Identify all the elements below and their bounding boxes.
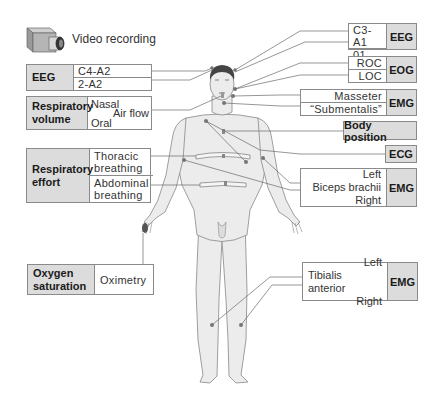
airflow-sensor — [221, 92, 224, 98]
thoracic-breathing: Thoracic breathing — [90, 149, 153, 175]
header-line-1: Respiratory — [32, 163, 93, 176]
emg-face-box: Masseter “Submentalis” EMG — [300, 89, 417, 116]
human-body-outline — [144, 68, 300, 383]
header-line-2: volume — [32, 113, 71, 126]
emg-face-header: EMG — [386, 90, 416, 115]
emg-arm-lines: Left Biceps brachii Right — [301, 169, 386, 206]
eog-roc: ROC — [349, 57, 386, 69]
emg-leg-header: EMG — [387, 263, 417, 300]
abdominal-line-1: Abdominal — [94, 177, 149, 189]
polysomnography-diagram: Video recording EEG C4-A2 2-A2 Respirato… — [0, 0, 439, 397]
body-position-label: Body position — [344, 122, 416, 139]
emg-arm-muscle: Biceps brachii — [313, 181, 381, 194]
eog-header: EOG — [386, 57, 416, 82]
header-line-1: Respiratory — [32, 100, 93, 113]
eeg-channel-c4-a2: C4-A2 — [74, 65, 151, 77]
oral-label: Oral — [91, 117, 112, 129]
eog-loc: LOC — [349, 69, 386, 82]
emg-masseter: Masseter — [301, 90, 386, 102]
airflow-label: Air flow — [113, 107, 149, 119]
emg-arm-right: Right — [355, 194, 381, 207]
eog-box: ROC LOC EOG — [348, 56, 417, 83]
emg-submentalis: “Submentalis” — [301, 102, 386, 115]
thoracic-line-2: breathing — [94, 162, 143, 174]
respiratory-volume-header: Respiratory volume — [27, 97, 88, 129]
respiratory-volume-box: Respiratory volume Nasal Air flow Oral — [26, 96, 152, 130]
thoracic-sensor — [222, 154, 225, 158]
emg-leg-box: Left Tibialis anterior Right EMG — [302, 262, 418, 301]
eeg-left-box: EEG C4-A2 2-A2 — [26, 64, 152, 91]
header-line-2: saturation — [33, 280, 86, 293]
abdominal-breathing: Abdominal breathing — [90, 175, 153, 202]
ecg-box: ECG — [385, 145, 417, 163]
emg-leg-lines: Left Tibialis anterior Right — [303, 263, 387, 300]
abdominal-line-2: breathing — [94, 189, 143, 201]
eeg-right-box: C3-A1 01-A1 EEG — [348, 23, 417, 50]
header-line-1: Oxygen — [33, 267, 73, 280]
emg-arm-box: Left Biceps brachii Right EMG — [300, 168, 417, 207]
oximetry-label: Oximetry — [95, 265, 153, 294]
video-recording-label: Video recording — [72, 32, 156, 46]
emg-leg-left: Left — [364, 256, 382, 269]
emg-leg-muscle: Tibialis anterior — [308, 269, 382, 295]
oxygen-saturation-box: Oxygen saturation Oximetry — [27, 264, 154, 295]
oximeter-probe — [142, 223, 148, 233]
video-camera-icon — [27, 28, 64, 52]
respiratory-effort-box: Respiratory effort Thoracic breathing Ab… — [26, 148, 151, 203]
abdominal-sensor — [224, 181, 227, 186]
body-position-box: Body position — [343, 121, 417, 140]
eeg-channel-c3-a1: C3-A1 — [349, 24, 386, 48]
eeg-left-header: EEG — [27, 65, 74, 90]
header-line-2: effort — [32, 176, 60, 189]
eeg-right-header: EEG — [386, 24, 416, 49]
thoracic-line-1: Thoracic — [94, 150, 139, 162]
eeg-channel-2-a2: 2-A2 — [74, 77, 151, 90]
emg-arm-left: Left — [363, 168, 381, 181]
oxygen-saturation-header: Oxygen saturation — [28, 265, 95, 294]
emg-arm-header: EMG — [386, 169, 416, 206]
respiratory-effort-header: Respiratory effort — [27, 149, 90, 202]
ecg-label: ECG — [386, 146, 416, 162]
emg-leg-right: Right — [356, 295, 382, 308]
